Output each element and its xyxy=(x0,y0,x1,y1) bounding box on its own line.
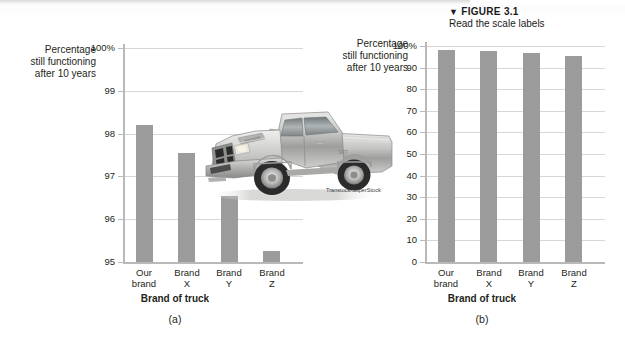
y-axis-tick-label: 80 xyxy=(373,83,417,94)
panel-a-x-axis-title: Brand of truck xyxy=(110,293,240,304)
bar xyxy=(136,125,153,262)
photo-credit: Transtock/SuperStock xyxy=(326,187,381,193)
y-axis-tick-label: 100% xyxy=(71,42,115,53)
y-axis-tick-label: 98 xyxy=(71,128,115,139)
bar xyxy=(221,196,238,262)
x-axis-category-label: BrandZ xyxy=(246,267,298,289)
y-axis-tick-label: 0 xyxy=(373,256,417,267)
panel-b-x-axis-title: Brand of truck xyxy=(412,293,552,304)
y-axis-line xyxy=(425,42,427,263)
figure-root: ▼FIGURE 3.1 Read the scale labels Percen… xyxy=(0,0,625,338)
y-axis-tick-label: 100% xyxy=(373,40,417,51)
y-axis-tick-label: 90 xyxy=(373,62,417,73)
y-axis-tick-label: 10 xyxy=(373,234,417,245)
gridline xyxy=(123,48,303,49)
x-axis-line xyxy=(123,262,303,264)
x-axis-category-label-line1: Brand xyxy=(548,267,600,278)
front-wheel xyxy=(254,161,290,195)
y-axis-tick-label: 95 xyxy=(71,256,115,267)
x-axis-category-label-line1: Brand xyxy=(246,267,298,278)
panel-b-letter: (b) xyxy=(412,313,552,325)
y-axis-tick-label: 20 xyxy=(373,213,417,224)
bar xyxy=(438,50,455,262)
x-axis-category-label-line2: Z xyxy=(246,278,298,289)
bar xyxy=(263,251,280,262)
y-axis-tick-label: 99 xyxy=(71,85,115,96)
x-axis-line xyxy=(425,262,605,264)
bar xyxy=(565,56,582,262)
x-axis-category-label: BrandZ xyxy=(548,267,600,289)
gridline xyxy=(425,46,605,47)
y-axis-tick-label: 96 xyxy=(71,213,115,224)
svg-text:SRT: SRT xyxy=(338,149,348,155)
y-axis-line xyxy=(123,44,125,263)
panel-a-letter: (a) xyxy=(110,313,240,325)
x-axis-category-label-line2: Z xyxy=(548,278,600,289)
bar xyxy=(523,53,540,262)
rear-wheel xyxy=(338,160,371,191)
gridline xyxy=(123,91,303,92)
bar xyxy=(480,51,497,262)
y-axis-tick-label: 97 xyxy=(71,170,115,181)
